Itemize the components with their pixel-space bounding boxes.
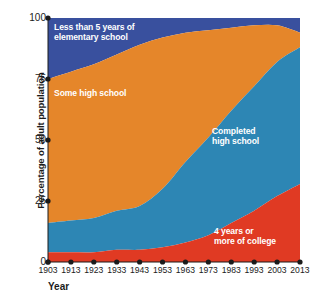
x-axis-title: Year xyxy=(48,281,69,292)
y-tick-label-25: 25 xyxy=(20,196,46,206)
series-label-completed-high-school: Completed high school xyxy=(212,126,259,147)
chart-figure: Percentage of adult population 100 75 50… xyxy=(0,0,319,298)
y-tick-label-75: 75 xyxy=(20,74,46,84)
x-tick-label-2013: 2013 xyxy=(285,266,315,275)
series-label-elementary: Less than 5 years of elementary school xyxy=(54,22,135,43)
series-label-some-high-school: Some high school xyxy=(54,88,126,98)
y-axis-ticks: 100 75 50 25 0 xyxy=(0,0,46,298)
y-tick-label-50: 50 xyxy=(20,135,46,145)
x-axis-ticks: 1903 1913 1923 1933 1943 1953 1963 1973 … xyxy=(48,266,304,280)
y-tick-label-100: 100 xyxy=(20,13,46,23)
series-label-college: 4 years or more of college xyxy=(214,226,276,247)
